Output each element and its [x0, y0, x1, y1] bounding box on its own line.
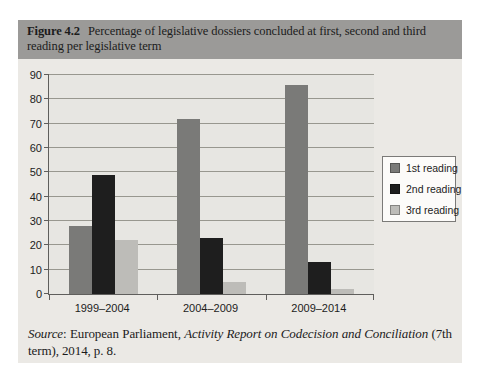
bar-1st-reading-1999-2004	[69, 226, 92, 294]
y-axis-label-0: 0	[18, 287, 42, 301]
x-axis-label-2004-2009: 2004–2009	[156, 302, 264, 314]
legend-label-1st-reading: 1st reading	[406, 162, 458, 174]
y-axis-label-40: 40	[18, 190, 42, 204]
legend-item-1st-reading: 1st reading	[390, 157, 455, 178]
gridline-90	[49, 74, 374, 75]
bar-1st-reading-2004-2009	[177, 119, 200, 294]
gridline-80	[49, 98, 374, 99]
gridline-50	[49, 171, 374, 172]
y-tick-mark-40	[44, 196, 49, 197]
x-tick-mark-1	[157, 295, 158, 300]
y-axis-label-30: 30	[18, 214, 42, 228]
y-tick-mark-30	[44, 220, 49, 221]
bar-3rd-reading-1999-2004	[115, 240, 138, 294]
legend-item-2nd-reading: 2nd reading	[390, 178, 455, 199]
legend: 1st reading2nd reading3rd reading	[382, 156, 456, 222]
y-tick-mark-70	[44, 123, 49, 124]
y-axis-label-20: 20	[18, 238, 42, 252]
y-axis-label-70: 70	[18, 117, 42, 131]
y-tick-mark-20	[44, 244, 49, 245]
x-tick-mark-0	[49, 295, 50, 300]
y-axis-labels: 0102030405060708090	[18, 75, 42, 294]
x-tick-mark-2	[266, 295, 267, 300]
y-tick-mark-0	[44, 293, 49, 294]
source-text-pre: : European Parliament,	[63, 326, 184, 341]
bar-1st-reading-2009-2014	[285, 85, 308, 294]
3rd-reading-swatch	[390, 205, 400, 215]
bar-2nd-reading-2004-2009	[200, 238, 223, 294]
figure-label: Figure 4.2	[27, 24, 80, 38]
x-tick-mark-3	[373, 295, 374, 300]
gridline-60	[49, 147, 374, 148]
y-axis-label-50: 50	[18, 165, 42, 179]
x-axis-labels: 1999–20042004–20092009–2014	[48, 302, 373, 314]
legend-label-2nd-reading: 2nd reading	[406, 183, 461, 195]
legend-item-3rd-reading: 3rd reading	[390, 200, 455, 221]
figure-header: Figure 4.2Percentage of legislative doss…	[18, 20, 462, 59]
figure-caption: Percentage of legislative dossiers concl…	[27, 24, 426, 53]
y-tick-mark-50	[44, 171, 49, 172]
x-axis-label-1999-2004: 1999–2004	[48, 302, 156, 314]
y-tick-mark-60	[44, 147, 49, 148]
y-tick-mark-10	[44, 269, 49, 270]
source-note: Source: European Parliament, Activity Re…	[18, 325, 462, 359]
x-axis-label-2009-2014: 2009–2014	[265, 302, 373, 314]
legend-label-3rd-reading: 3rd reading	[406, 204, 459, 216]
y-tick-mark-80	[44, 98, 49, 99]
y-axis-label-90: 90	[18, 68, 42, 82]
y-axis-label-80: 80	[18, 92, 42, 106]
bar-3rd-reading-2004-2009	[223, 282, 246, 294]
y-axis-label-10: 10	[18, 263, 42, 277]
bar-3rd-reading-2009-2014	[331, 289, 354, 294]
source-report-title: Activity Report on Codecision and Concil…	[184, 326, 428, 341]
plot-area	[48, 75, 374, 295]
y-axis-label-60: 60	[18, 141, 42, 155]
2nd-reading-swatch	[390, 184, 400, 194]
y-tick-mark-90	[44, 74, 49, 75]
bar-2nd-reading-2009-2014	[308, 262, 331, 294]
bar-2nd-reading-1999-2004	[92, 175, 115, 294]
chart-area: 0102030405060708090 1999–20042004–200920…	[18, 59, 462, 325]
figure-box: Figure 4.2Percentage of legislative doss…	[18, 20, 462, 363]
1st-reading-swatch	[390, 163, 400, 173]
gridline-70	[49, 123, 374, 124]
source-word: Source	[28, 326, 63, 341]
